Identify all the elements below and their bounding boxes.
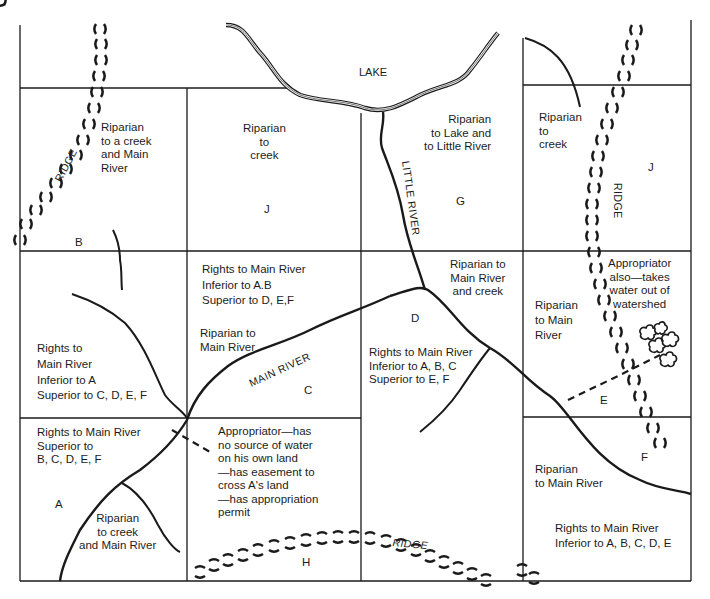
- parcel-h-letter: H: [302, 556, 310, 568]
- parcel-b-subtext: Rights to Main River Inferior to A Super…: [37, 341, 147, 404]
- parcel-f-text: Riparian to Main River: [535, 463, 603, 490]
- parcel-d-letter: D: [411, 312, 419, 324]
- parcel-b-text: Riparian to a creek and Main River: [101, 121, 152, 175]
- parcel-g-text: Riparian to Lake and to Little River: [424, 113, 491, 154]
- parcel-a-letter: A: [55, 498, 63, 510]
- parcel-a-subtext: Riparian to creek and Main River: [79, 512, 156, 553]
- parcel-e-text: Riparian to Main River: [535, 298, 578, 343]
- parcel-c-subtext: Riparian to Main River: [200, 327, 256, 354]
- parcel-b-letter: B: [75, 236, 83, 248]
- parcel-i-letter: J: [264, 203, 270, 215]
- tree-cluster-icon: [640, 322, 679, 367]
- creek-j: [525, 38, 580, 107]
- parcel-e-letter: E: [600, 394, 608, 406]
- parcel-e-subtext: Appropriator also—takes water out of wat…: [608, 257, 671, 311]
- ridge-right-label: RIDGE: [612, 183, 624, 219]
- water-rights-map: [0, 0, 710, 599]
- parcel-a-text: Rights to Main River Superior to B, C, D…: [37, 426, 141, 467]
- parcel-j-letter: J: [648, 161, 654, 173]
- little-river: [381, 112, 425, 290]
- parcel-i-text: Riparian to creek: [243, 122, 286, 163]
- parcel-h-text: Appropriator—has no source of water on h…: [218, 425, 318, 520]
- parcel-c-text: Rights to Main River Inferior to A.B Sup…: [202, 262, 306, 309]
- parcel-c-letter: C: [304, 384, 312, 396]
- parcel-g-letter: G: [456, 195, 465, 207]
- parcel-d-text: Riparian to Main River and creek: [450, 258, 506, 299]
- ridge-left: [0, 0, 107, 245]
- lake-label: LAKE: [359, 66, 387, 78]
- parcel-d-subtext: Rights to Main River Inferior to A, B, C…: [369, 346, 473, 387]
- pipeline-h: [172, 430, 210, 452]
- parcel-f-letter: F: [641, 451, 648, 463]
- ridge-right: [587, 25, 666, 448]
- parcel-f-subtext: Rights to Main River Inferior to A, B, C…: [555, 521, 671, 551]
- creek-b: [113, 230, 122, 290]
- parcel-j-text: Riparian to creek: [539, 111, 582, 152]
